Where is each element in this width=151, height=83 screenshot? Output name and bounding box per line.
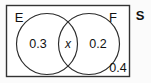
set-e-label: E xyxy=(15,10,24,25)
region-value-outside-both: 0.4 xyxy=(109,61,126,75)
set-f-label: F xyxy=(109,10,117,25)
venn-diagram-figure: E F S 0.3 x 0.2 0.4 xyxy=(0,0,151,83)
region-value-right-only: 0.2 xyxy=(89,37,106,51)
region-value-left-only: 0.3 xyxy=(29,37,46,51)
region-value-intersection: x xyxy=(64,37,72,51)
universal-set-label: S xyxy=(136,8,145,23)
